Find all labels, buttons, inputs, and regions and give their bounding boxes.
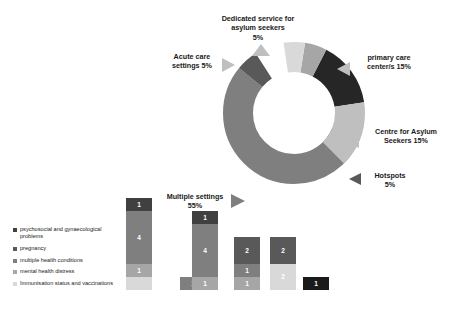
bar-segment: 1 [234, 277, 260, 290]
bar-segment: 2 [234, 237, 260, 263]
leader-hotspots [349, 173, 361, 185]
legend-item-label: psychosocial and gynaecological problems [20, 226, 121, 240]
donut-label-hotspots: Hotspots 5% [362, 171, 418, 190]
legend-item: mental health distress [13, 268, 121, 275]
bar-segment: 2 [270, 264, 296, 290]
leader-dedicated-service [252, 44, 270, 56]
legend-item: multiple health conditions [13, 257, 121, 264]
bar-segment: 4 [192, 224, 218, 277]
legend-swatch-icon [13, 270, 17, 274]
legend-item-label: pregnancy [20, 245, 46, 252]
donut-label-dedicated-service: Dedicated service for asylum seekers 5% [205, 14, 311, 42]
legend-item: Immunisation status and vaccinations [13, 280, 121, 287]
bar-segment: 1 [303, 277, 329, 290]
legend-item-label: Immunisation status and vaccinations [20, 280, 113, 287]
leader-primary-care [337, 62, 350, 76]
donut-chart [219, 38, 369, 188]
figure-canvas: Dedicated service for asylum seekers 5% … [0, 0, 458, 330]
bar-stack: 112 [234, 237, 260, 290]
bar-segment: 1 [126, 198, 152, 211]
donut-svg [219, 38, 369, 188]
legend-swatch-icon [13, 259, 17, 263]
legend-swatch-icon [13, 247, 17, 251]
bar-segment: 1 [192, 277, 218, 290]
donut-label-primary-care: primary care center/s 15% [351, 53, 427, 72]
stacked-bar-chart: 141Asylum seekers1Displaced children141M… [118, 196, 336, 326]
bar-segment: 1 [126, 264, 152, 277]
legend-item-label: multiple health conditions [20, 257, 83, 264]
legend-swatch-icon [13, 282, 17, 286]
legend: psychosocial and gynaecological problems… [13, 226, 121, 292]
legend-item: psychosocial and gynaecological problems [13, 226, 121, 240]
bar-stack: 1 [303, 277, 329, 290]
bar-stack: 141 [126, 198, 152, 290]
bar-stack: 22 [270, 237, 296, 290]
bar-segment: 1 [234, 264, 260, 277]
bar-segment: 2 [270, 237, 296, 263]
donut-label-centre-asylum-seekers: Centre for Asylum Seekers 15% [360, 127, 452, 146]
legend-item: pregnancy [13, 245, 121, 252]
donut-label-acute-care: Acute care settings 5% [160, 52, 224, 71]
bar-segment [126, 277, 152, 290]
bar-segment: 1 [192, 211, 218, 224]
legend-item-label: mental health distress [20, 268, 74, 275]
leader-centre-asylum-seekers [346, 134, 359, 148]
bar-segment: 4 [126, 211, 152, 264]
legend-swatch-icon [13, 228, 17, 232]
bar-stack: 141 [192, 211, 218, 290]
